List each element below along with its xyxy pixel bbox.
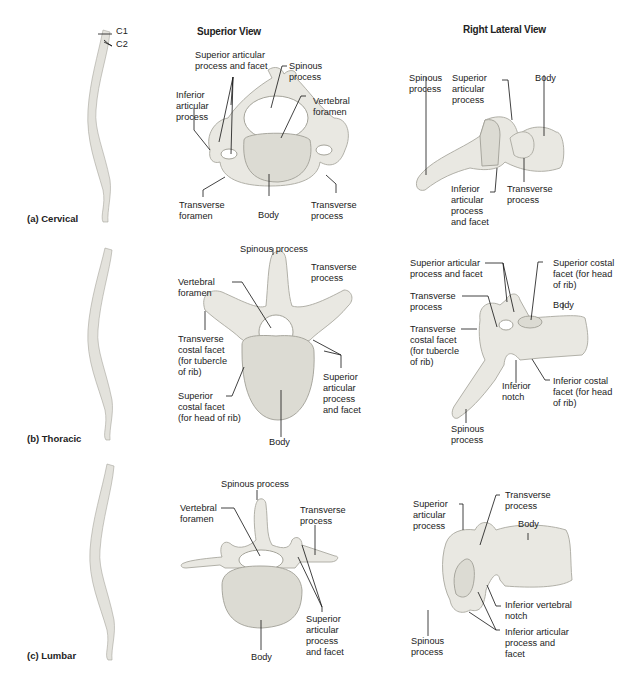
- label-thoracic-transverse-process: Transverse process: [311, 262, 357, 284]
- label-lumbar-lateral-superior-articular: Superior articular process: [413, 499, 448, 532]
- cervical-superior-illustration: [209, 67, 349, 186]
- label-lumbar-lateral-inferior-notch: Inferior vertebral notch: [505, 600, 572, 622]
- label-thoracic-lateral-body: Body: [553, 300, 574, 311]
- label-cervical-vertebral-foramen: Vertebral foramen: [313, 96, 350, 118]
- label-cervical-lateral-spinous: Spinous process: [409, 73, 442, 95]
- label-thoracic-lateral-superior-articular: Superior articular process and facet: [410, 258, 483, 280]
- column-title-lateral: Right Lateral View: [463, 24, 546, 35]
- spine-marker-c1: C1: [116, 26, 128, 37]
- label-lumbar-spinous: Spinous process: [221, 479, 289, 490]
- row-label-cervical: (a) Cervical: [27, 213, 78, 224]
- label-cervical-lateral-superior-articular: Superior articular process: [452, 73, 487, 106]
- spine-icon-thoracic: [88, 248, 113, 440]
- label-lumbar-lateral-inferior-articular: Inferior articular process and facet: [505, 627, 569, 660]
- cervical-lateral-illustration: [416, 117, 563, 191]
- lumbar-lateral-illustration: [443, 523, 572, 613]
- label-cervical-lateral-body: Body: [535, 73, 556, 84]
- label-thoracic-superior-costal-facet: Superior costal facet (for head of rib): [178, 391, 241, 424]
- row-label-thoracic: (b) Thoracic: [27, 433, 81, 444]
- label-lumbar-lateral-body: Body: [518, 519, 539, 530]
- label-lumbar-superior-articular: Superior articular process and facet: [306, 614, 344, 658]
- label-thoracic-lateral-transverse-costal: Transverse costal facet (for tubercle of…: [410, 324, 459, 368]
- spine-marker-c2: C2: [116, 39, 128, 50]
- label-thoracic-vertebral-foramen: Vertebral foramen: [178, 277, 215, 299]
- label-cervical-lateral-inferior-articular: Inferior articular process and facet: [451, 184, 489, 228]
- label-lumbar-lateral-spinous: Spinous process: [411, 636, 444, 658]
- label-lumbar-lateral-transverse-process: Transverse process: [505, 490, 551, 512]
- label-cervical-inferior-articular: Inferior articular process: [176, 90, 209, 123]
- label-thoracic-transverse-costal-facet: Transverse costal facet (for tubercle of…: [178, 334, 227, 378]
- label-lumbar-vertebral-foramen: Vertebral foramen: [180, 503, 217, 525]
- label-cervical-spinous: Spinous process: [289, 61, 322, 83]
- column-title-superior: Superior View: [197, 26, 261, 37]
- spine-icon-lumbar: [90, 464, 115, 660]
- label-cervical-lateral-transverse-process: Transverse process: [507, 184, 553, 206]
- label-thoracic-lateral-inferior-costal: Inferior costal facet (for head of rib): [553, 376, 612, 409]
- spine-icon-cervical: [88, 30, 112, 222]
- label-cervical-superior-articular: Superior articular process and facet: [195, 50, 268, 72]
- label-lumbar-transverse-process: Transverse process: [300, 505, 346, 527]
- label-thoracic-lateral-transverse-process: Transverse process: [410, 291, 456, 313]
- label-cervical-transverse-process: Transverse process: [311, 200, 357, 222]
- label-cervical-transverse-foramen: Transverse foramen: [179, 200, 225, 222]
- label-lumbar-body: Body: [251, 652, 272, 663]
- label-thoracic-lateral-superior-costal: Superior costal facet (for head of rib): [553, 258, 614, 291]
- label-thoracic-spinous: Spinous process: [240, 244, 308, 255]
- label-thoracic-lateral-inferior-notch: Inferior notch: [502, 381, 531, 403]
- label-cervical-body: Body: [258, 210, 279, 221]
- label-thoracic-superior-articular: Superior articular process and facet: [323, 372, 361, 416]
- label-thoracic-body: Body: [269, 437, 290, 448]
- label-thoracic-lateral-spinous: Spinous process: [451, 424, 484, 446]
- row-label-lumbar: (c) Lumbar: [27, 650, 76, 661]
